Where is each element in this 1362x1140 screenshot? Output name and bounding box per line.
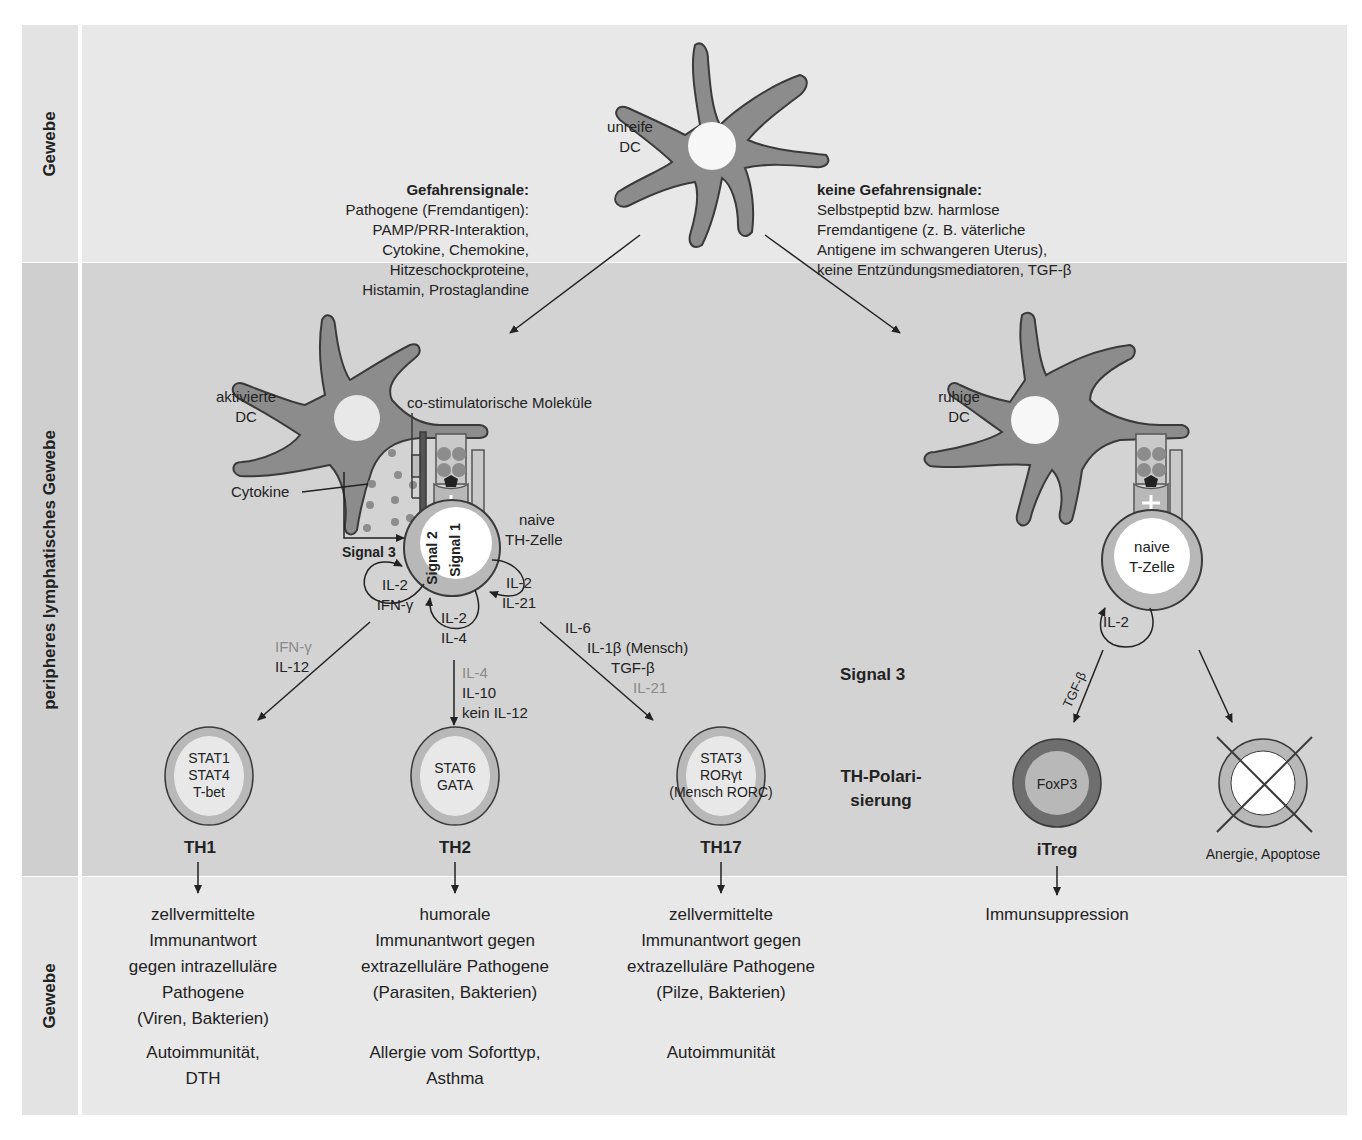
th1-response: zellvermittelteImmunantwortgegen intraze… xyxy=(118,902,288,1092)
loop-left-label: IL-2IFN-γ xyxy=(373,575,417,615)
anergy-apoptosis-icon xyxy=(1217,737,1312,832)
itreg-response: Immunsuppression xyxy=(957,902,1157,928)
th2-arrow-label: IL-4 IL-10 kein IL-12 xyxy=(462,663,528,723)
danger-signals-text: Gefahrensignale: Pathogene (Fremdantigen… xyxy=(270,180,529,300)
signal3-label-left: Signal 3 xyxy=(342,542,396,562)
th17-response: zellvermittelteImmunantwort gegenextraze… xyxy=(611,902,831,1066)
quiescent-dc-label: ruhigeDC xyxy=(930,387,988,427)
loop-bottom-label: IL-2IL-4 xyxy=(437,608,471,648)
th2-response: humoraleImmunantwort gegenextrazelluläre… xyxy=(345,902,565,1092)
signal2-label: Signal 2 xyxy=(422,531,442,585)
signal1-label: Signal 1 xyxy=(445,523,465,577)
naive-t-cell-label: naiveT-Zelle xyxy=(1117,537,1187,577)
tcr-mhc-complex-right-icon xyxy=(1134,434,1182,520)
itreg-name: iTreg xyxy=(1017,840,1097,860)
th-polarization-label: TH-Polari-sierung xyxy=(826,765,936,813)
anergy-label: Anergie, Apoptose xyxy=(1183,844,1343,864)
th17-factors: STAT3RORγt(Mensch RORC) xyxy=(668,750,774,801)
no-danger-signals-text: keine Gefahrensignale: Selbstpeptid bzw.… xyxy=(817,180,1071,280)
immature-dc-label: unreifeDC xyxy=(600,117,660,157)
th2-name: TH2 xyxy=(415,838,495,858)
cytokine-dots-icon xyxy=(363,449,417,532)
costim-label: co-stimulatorische Moleküle xyxy=(407,393,592,413)
th1-factors: STAT1STAT4T-bet xyxy=(174,750,244,801)
th1-name: TH1 xyxy=(160,838,240,858)
naive-th-cell-label: naiveTH-Zelle xyxy=(505,510,563,550)
th17-name: TH17 xyxy=(681,838,761,858)
th1-arrow-label: IFN-γ IL-12 xyxy=(275,637,312,677)
activated-dc-label: aktivierteDC xyxy=(212,387,280,427)
il2-loop-label: IL-2 xyxy=(1103,612,1129,632)
loop-right-label: IL-2IL-21 xyxy=(500,573,538,613)
th2-factors: STAT6GATA xyxy=(420,760,490,794)
signal3-center-label: Signal 3 xyxy=(840,665,905,685)
th17-arrow-label: IL-6 IL-1β (Mensch) TGF-β IL-21 xyxy=(565,618,688,698)
itreg-factors: FoxP3 xyxy=(1027,774,1087,794)
cytokine-label: Cytokine xyxy=(231,482,289,502)
